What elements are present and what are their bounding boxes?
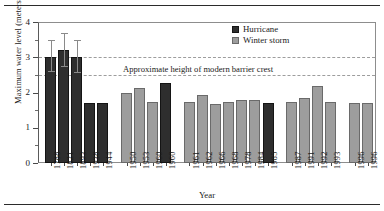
x-tick-label-1788-0: 1788 — [54, 151, 62, 169]
x-tick-label-1953-6: 1953 — [143, 151, 151, 169]
x-tick-4 — [103, 163, 104, 166]
x-tick-label-1960-8: 1960 — [169, 151, 177, 169]
error-bar-1893 — [77, 40, 78, 72]
x-tick-17 — [305, 163, 306, 166]
figure-bottom-rule — [4, 204, 380, 205]
y-tick-label-1: 1 — [16, 123, 30, 132]
chart-legend: Hurricane Winter storm — [232, 24, 289, 46]
x-tick-21 — [368, 163, 369, 166]
y-minor-tick — [35, 40, 38, 41]
error-cap-low-1788 — [48, 71, 55, 72]
barrier-crest-annotation: Approximate height of modern barrier cre… — [123, 64, 273, 74]
legend-label-hurricane: Hurricane — [243, 24, 278, 35]
y-minor-tick — [35, 110, 38, 111]
legend-item-hurricane: Hurricane — [232, 24, 289, 35]
x-tick-20 — [355, 163, 356, 166]
x-tick-label-1821-1: 1821 — [67, 151, 75, 169]
x-tick-1 — [64, 163, 65, 166]
x-tick-6 — [140, 163, 141, 166]
y-minor-tick — [35, 145, 38, 146]
y-tick-label-0: 0 — [16, 159, 30, 168]
bar-1893-2 — [71, 57, 82, 163]
y-tick-3 — [33, 57, 38, 58]
x-tick-2 — [77, 163, 78, 166]
figure-container: Maximum water level (meters) Approximate… — [0, 0, 384, 211]
x-tick-label-1966-11: 1966 — [219, 151, 227, 169]
y-tick-1 — [33, 128, 38, 129]
x-tick-label-1961-9: 1961 — [193, 151, 201, 169]
x-tick-3 — [90, 163, 91, 166]
x-tick-11 — [216, 163, 217, 166]
x-tick-14 — [255, 163, 256, 166]
x-tick-label-1984-14: 1984 — [258, 151, 266, 169]
plot-area: Approximate height of modern barrier cre… — [39, 22, 375, 163]
reference-line-3 — [39, 57, 375, 58]
x-tick-label-1993-19: 1993 — [334, 151, 342, 169]
x-tick-18 — [318, 163, 319, 166]
x-tick-label-1938-3: 1938 — [93, 151, 101, 169]
error-bar-1788 — [51, 40, 52, 71]
x-tick-label-1944-4: 1944 — [106, 151, 114, 169]
y-minor-tick — [35, 75, 38, 76]
x-tick-label-1987-16: 1987 — [295, 151, 303, 169]
figure-top-rule — [4, 5, 380, 6]
error-cap-low-1893 — [74, 72, 81, 73]
x-tick-label-1968-12: 1968 — [232, 151, 240, 169]
error-cap-low-1821 — [61, 66, 68, 67]
x-tick-9 — [189, 163, 190, 166]
x-tick-label-1978-13: 1978 — [245, 151, 253, 169]
x-tick-label-1962-10: 1962 — [206, 151, 214, 169]
legend-label-winter-storm: Winter storm — [243, 35, 289, 46]
x-tick-0 — [51, 163, 52, 166]
y-tick-label-4: 4 — [16, 18, 30, 27]
y-tick-2 — [33, 93, 38, 94]
x-axis-label: Year — [39, 190, 375, 200]
error-cap-high-1821 — [61, 33, 68, 34]
x-tick-label-1960-7: 1960 — [156, 151, 164, 169]
bar-1788-0 — [45, 57, 56, 163]
y-tick-label-2: 2 — [16, 88, 30, 97]
x-tick-10 — [203, 163, 204, 166]
reference-line-2.5 — [39, 75, 375, 76]
legend-swatch-winter-storm — [232, 37, 239, 44]
legend-item-winter-storm: Winter storm — [232, 35, 289, 46]
x-tick-5 — [127, 163, 128, 166]
x-tick-label-1950-5: 1950 — [130, 151, 138, 169]
x-tick-label-1996-21: 1996 — [371, 151, 379, 169]
x-tick-7 — [153, 163, 154, 166]
x-tick-label-1992-18: 1992 — [321, 151, 329, 169]
x-tick-label-1985-15: 1985 — [271, 151, 279, 169]
x-tick-label-1991-17: 1991 — [308, 151, 316, 169]
x-tick-16 — [292, 163, 293, 166]
x-tick-15 — [268, 163, 269, 166]
error-bar-1821 — [64, 33, 65, 65]
y-tick-label-3: 3 — [16, 53, 30, 62]
y-tick-0 — [33, 163, 38, 164]
error-cap-high-1893 — [74, 40, 81, 41]
x-tick-19 — [331, 163, 332, 166]
y-tick-4 — [33, 22, 38, 23]
legend-swatch-hurricane — [232, 26, 239, 33]
x-tick-12 — [229, 163, 230, 166]
error-cap-high-1788 — [48, 40, 55, 41]
x-tick-8 — [166, 163, 167, 166]
x-tick-label-1996-20: 1996 — [358, 151, 366, 169]
x-tick-13 — [242, 163, 243, 166]
x-tick-label-1893-2: 1893 — [80, 151, 88, 169]
